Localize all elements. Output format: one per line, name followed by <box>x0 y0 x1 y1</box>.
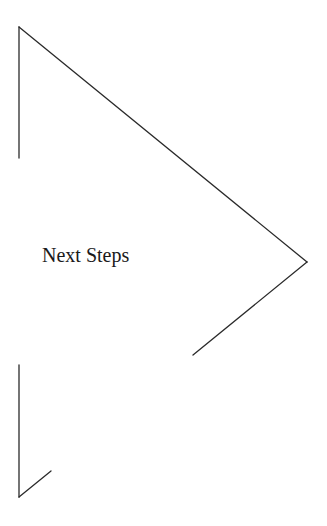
top-diagonal-line <box>19 27 307 262</box>
bottom-diagonal-line <box>19 471 51 497</box>
right-lower-diagonal-line <box>193 262 307 355</box>
next-steps-label: Next Steps <box>42 243 129 267</box>
